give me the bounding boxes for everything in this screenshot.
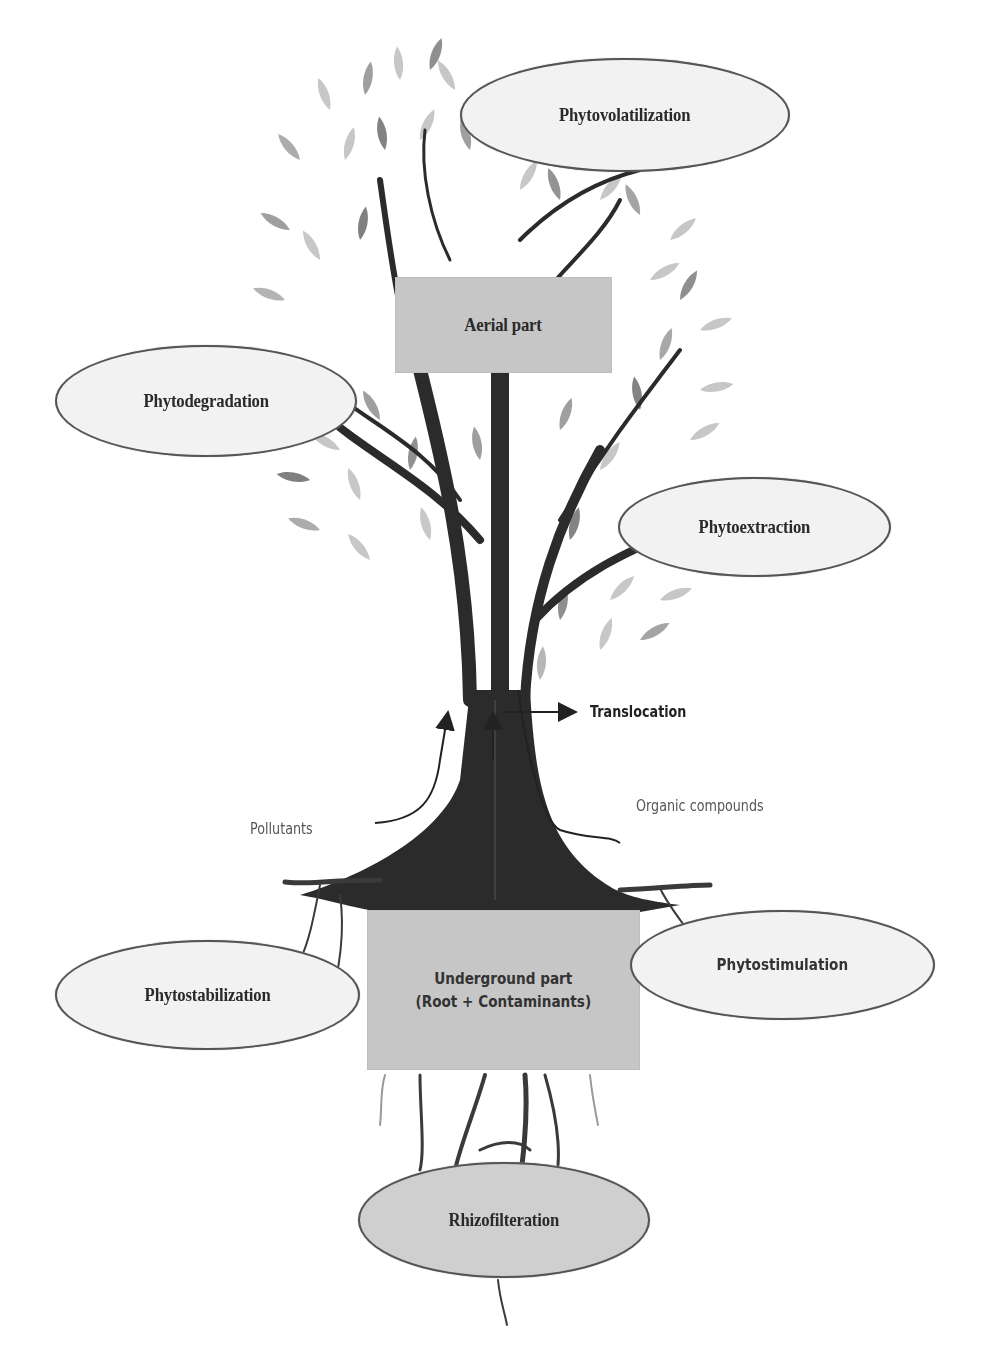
phytostabilization-node: Phytostabilization	[55, 940, 360, 1050]
phytoextraction-label: Phytoextraction	[699, 516, 811, 538]
underground-part-label: Underground part	[434, 967, 572, 990]
organic-compounds-label: Organic compounds	[636, 797, 764, 815]
phytovolatilization-node: Phytovolatilization	[460, 58, 790, 172]
phytostimulation-label: Phytostimulation	[717, 953, 848, 976]
aerial-part-label: Aerial part	[465, 314, 542, 336]
phytostimulation-node: Phytostimulation	[630, 910, 935, 1020]
underground-part-box: Underground part (Root + Contaminants)	[367, 910, 640, 1070]
tree-illustration	[0, 0, 984, 1359]
pollutants-label: Pollutants	[250, 820, 313, 838]
rhizofilteration-node: Rhizofilteration	[358, 1162, 650, 1278]
aerial-part-box: Aerial part	[395, 277, 612, 373]
phytostabilization-label: Phytostabilization	[145, 984, 271, 1006]
rhizofilteration-label: Rhizofilteration	[449, 1209, 559, 1231]
phytodegradation-label: Phytodegradation	[143, 390, 268, 412]
root-contaminants-label: (Root + Contaminants)	[416, 990, 592, 1013]
translocation-label: Translocation	[590, 703, 686, 721]
phytovolatilization-label: Phytovolatilization	[559, 104, 690, 126]
phytoextraction-node: Phytoextraction	[618, 477, 891, 577]
phytodegradation-node: Phytodegradation	[55, 345, 357, 457]
